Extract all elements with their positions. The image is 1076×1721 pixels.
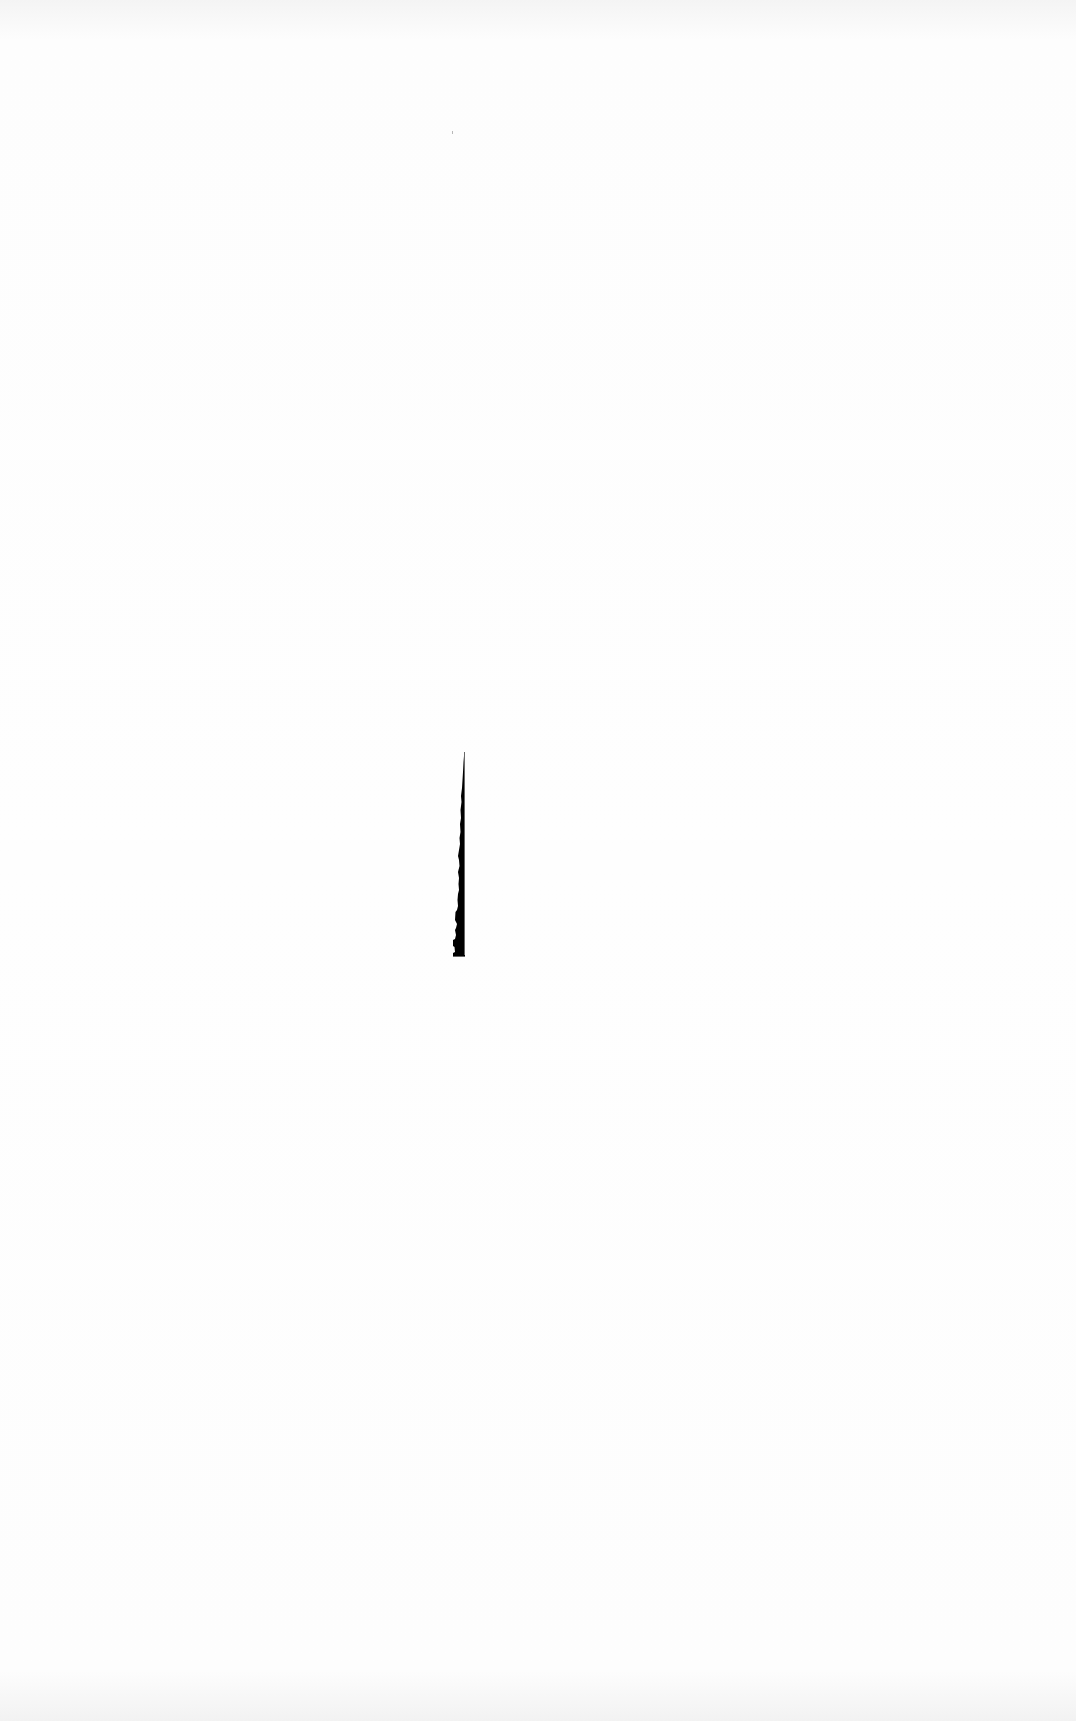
blank-page — [0, 0, 1076, 1721]
vertical-sliver-shape — [450, 752, 470, 960]
dust-speck — [452, 131, 453, 134]
